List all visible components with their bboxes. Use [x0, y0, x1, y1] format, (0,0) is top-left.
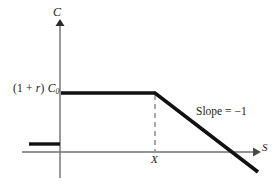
x-axis-label: S	[262, 141, 268, 153]
y-axis-label: C	[53, 5, 61, 20]
slope-annotation: Slope = −1	[196, 105, 247, 117]
intercept-annotation: (1 + r) C0	[13, 82, 60, 96]
intercept-c-symbol: C	[48, 82, 56, 94]
intercept-mid-text: )	[41, 82, 48, 94]
intercept-prefix-text: (1 +	[13, 82, 36, 94]
x-axis-arrowhead	[253, 148, 261, 157]
intercept-subscript: 0	[56, 87, 60, 96]
y-axis-arrowhead	[56, 19, 65, 26]
x-axis-tick-label-strike: X	[151, 153, 158, 165]
payoff-diagram-figure: C S X (1 + r) C0 Slope = −1	[0, 0, 277, 186]
